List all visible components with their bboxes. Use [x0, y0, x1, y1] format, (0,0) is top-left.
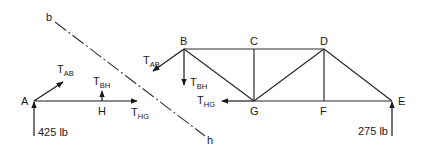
member-gd [254, 49, 324, 101]
force-label-thg-left: THG [131, 106, 149, 121]
cut-label-h: h [207, 134, 213, 146]
force-label-tab-left: TAB [57, 63, 74, 78]
node-label-d: D [320, 35, 328, 47]
node-label-h: H [98, 105, 106, 117]
node-label-c: C [250, 35, 258, 47]
node-label-a: A [21, 95, 29, 107]
reaction-label-a: 425 lb [38, 126, 68, 138]
member-de [324, 49, 392, 101]
force-label-tbh-left: TBH [93, 75, 110, 90]
force-label-thg-right: THG [197, 94, 215, 109]
node-label-b: B [180, 35, 187, 47]
left-free-body: A H 425 lb TAB TBH THG [21, 63, 149, 138]
force-arrow-tab-left [34, 82, 63, 101]
reaction-label-e: 275 lb [358, 125, 388, 137]
node-label-f: F [320, 105, 327, 117]
member-bg [184, 49, 254, 101]
cut-label-b: b [46, 11, 52, 23]
force-label-tbh-right: TBH [190, 76, 207, 91]
right-free-body: B C D G F E 275 lb TAB TBH THG [143, 35, 405, 137]
force-label-tab-right: TAB [143, 54, 160, 69]
node-label-g: G [250, 105, 259, 117]
truss-diagram: b h A H 425 lb TAB TBH THG [0, 0, 422, 152]
diagram-canvas: b h A H 425 lb TAB TBH THG [0, 0, 422, 152]
node-label-e: E [398, 95, 405, 107]
